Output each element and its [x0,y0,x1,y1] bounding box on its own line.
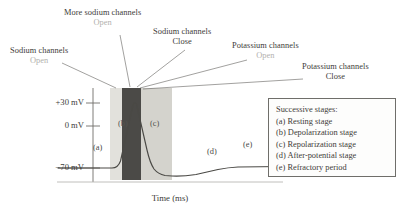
annotation-title: Potassium channels [302,62,369,71]
action-potential-figure: Sodium channels Open More sodium channel… [0,0,408,216]
stage-marker-e: (e) [243,140,252,149]
leader-line-potassium-close [143,79,303,89]
annotation-state: Open [10,56,68,66]
annotation-title: More sodium channels [64,8,141,17]
annotation-title: Potassium channels [232,41,299,50]
leader-line-more-sodium-open [120,35,130,87]
y-axis-tick-label-zero: 0 mV [18,121,84,130]
x-axis-label: Time (ms) [95,193,245,203]
legend-box: Successive stages: (a) Resting stage (b)… [268,98,396,177]
annotation-state: Open [232,51,299,61]
stage-marker-d: (d) [207,147,217,156]
band-b-onset [110,88,122,180]
annotation-state: Close [302,72,369,82]
annotation-state: Close [153,37,211,47]
band-b-depolarization [122,88,141,180]
annotation-potassium-channels-close: Potassium channels Close [302,62,369,82]
y-axis-tick-label-minus70: −70 mV [18,163,84,172]
legend-item-b: (b) Depolarization stage [276,127,395,139]
annotation-title: Sodium channels [153,27,211,36]
annotation-state: Open [64,18,141,28]
legend-item-d: (d) After-potential stage [276,150,395,162]
annotation-potassium-channels-open: Potassium channels Open [232,41,299,61]
annotation-more-sodium-channels-open: More sodium channels Open [64,8,141,28]
stage-marker-a: (a) [93,143,102,152]
legend-item-c: (c) Repolarization stage [276,139,395,151]
annotation-sodium-channels-open: Sodium channels Open [10,46,68,66]
annotation-sodium-channels-close: Sodium channels Close [153,27,211,47]
leader-line-sodium-close [137,50,185,87]
legend-item-e: (e) Refractory period [276,162,395,174]
stage-marker-c: (c) [150,119,159,128]
stage-marker-b: (b) [118,119,128,128]
leader-line-sodium-open [62,63,116,88]
band-c-repolarization [141,88,172,180]
legend-list: (a) Resting stage (b) Depolarization sta… [276,116,395,174]
y-axis-tick-label-plus30: +30 mV [18,98,84,107]
legend-item-a: (a) Resting stage [276,116,395,128]
annotation-title: Sodium channels [10,46,68,55]
legend-title: Successive stages: [276,104,395,116]
